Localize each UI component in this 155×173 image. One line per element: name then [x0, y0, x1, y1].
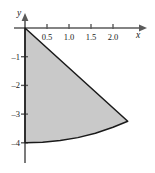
y-axis-arrowhead: [22, 13, 29, 21]
y-tick-label: –3: [4, 110, 20, 119]
y-tick-label: –1: [4, 52, 20, 61]
y-axis-label: y: [17, 9, 21, 19]
x-axis-label: x: [136, 31, 140, 41]
x-tick-label: 2.0: [108, 33, 119, 42]
x-tick-label: 1.0: [64, 33, 75, 42]
shaded-region: [25, 28, 128, 143]
x-axis: [14, 25, 147, 32]
x-tick-label: 0.5: [42, 33, 53, 42]
plot-figure: y x 0.51.01.52.0 –1–2–3–4: [0, 0, 155, 173]
y-tick-label: –2: [4, 81, 20, 90]
x-tick-label: 1.5: [86, 33, 97, 42]
plot-canvas: [0, 0, 155, 173]
y-tick-label: –4: [4, 139, 20, 148]
